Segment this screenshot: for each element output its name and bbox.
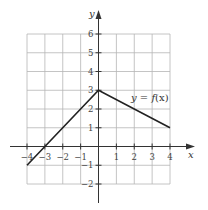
function-label-arg: (x) <box>155 92 169 103</box>
y-tick-label: 3 <box>88 85 93 95</box>
y-tick-label: 5 <box>88 48 93 58</box>
function-label: y = f(x) <box>130 92 169 103</box>
x-tick-label: 1 <box>114 152 119 162</box>
x-tick-label: −2 <box>56 152 69 162</box>
y-tick-label: −2 <box>81 179 94 189</box>
y-axis-label: y <box>88 8 95 19</box>
x-axis-label: x <box>188 149 194 160</box>
y-tick-label: −1 <box>81 160 94 170</box>
y-axis-arrow-icon <box>96 10 102 19</box>
function-label-eq: = <box>137 92 152 103</box>
x-tick-label: −3 <box>39 152 52 162</box>
y-tick-label: 4 <box>88 67 93 77</box>
x-tick-label: 3 <box>149 152 154 162</box>
y-tick-label: 1 <box>88 123 93 133</box>
x-tick-label: 4 <box>167 152 172 162</box>
y-tick-label: 2 <box>88 104 93 114</box>
x-tick-label: 2 <box>132 152 137 162</box>
axes <box>10 10 195 203</box>
y-tick-label: 6 <box>88 29 93 39</box>
function-graph: −4−3−2−11234−2−1123456 x y y = f(x) <box>0 0 208 210</box>
